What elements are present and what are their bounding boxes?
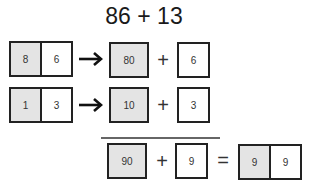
right-arrow-icon [78, 52, 104, 66]
ones-digit: 6 [42, 43, 71, 75]
number-box-86: 8 6 [9, 41, 73, 77]
tens-value-box: 80 [109, 42, 149, 78]
right-arrow-icon [78, 98, 104, 112]
ones-digit: 9 [271, 146, 300, 178]
equals-sign: = [215, 150, 231, 170]
tens-digit: 9 [240, 146, 271, 178]
tens-digit: 1 [11, 89, 42, 121]
tens-value-box: 10 [109, 87, 149, 123]
ones-value-box: 6 [177, 42, 210, 78]
ones-sum-box: 9 [175, 143, 208, 179]
tens-digit: 8 [11, 43, 42, 75]
answer-box-99: 9 9 [238, 144, 302, 180]
ones-value-box: 3 [177, 87, 210, 123]
plus-sign: + [155, 50, 171, 70]
problem-title: 86 + 13 [100, 3, 188, 29]
plus-sign: + [154, 151, 170, 171]
sum-line [101, 137, 220, 139]
plus-sign: + [155, 95, 171, 115]
ones-digit: 3 [42, 89, 71, 121]
tens-sum-box: 90 [107, 143, 147, 179]
number-box-13: 1 3 [9, 87, 73, 123]
